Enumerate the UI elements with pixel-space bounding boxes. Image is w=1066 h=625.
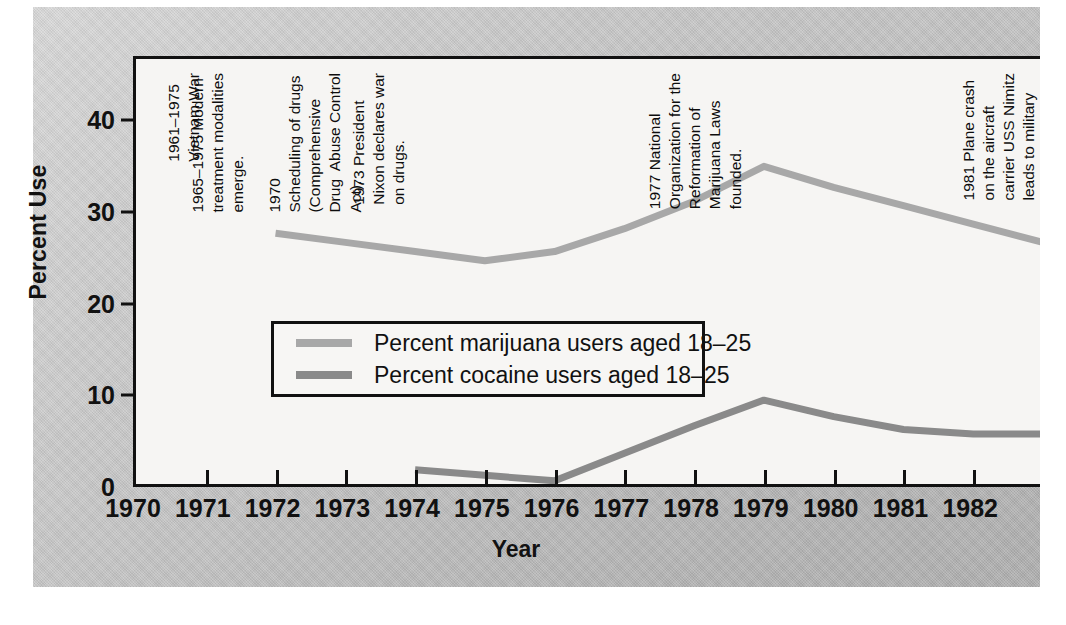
legend-item: Percent cocaine users aged 18–25: [296, 360, 702, 390]
y-tick-label: 40: [57, 106, 115, 135]
x-tick-mark: [276, 470, 279, 484]
x-tick-label: 1976: [524, 494, 580, 523]
x-tick-mark: [764, 470, 767, 484]
line-cocaine: [415, 400, 1040, 481]
y-tick-label: 30: [57, 197, 115, 226]
x-tick-mark: [694, 470, 697, 484]
x-tick-label: 1971: [175, 494, 231, 523]
x-tick-label: 1975: [454, 494, 510, 523]
x-tick-mark: [555, 470, 558, 484]
x-tick-label: 1979: [733, 494, 789, 523]
plot-inner: 1961–1975 Vietnam War1965–1975 Modern tr…: [136, 59, 1040, 484]
y-tick-label: 10: [57, 381, 115, 410]
x-tick-mark: [485, 470, 488, 484]
x-tick-label: 1982: [942, 494, 998, 523]
x-tick-label: 1981: [873, 494, 929, 523]
legend-swatch-marijuana: [296, 339, 352, 347]
x-tick-mark: [834, 470, 837, 484]
x-tick-label: 1977: [594, 494, 650, 523]
plot-area: 1961–1975 Vietnam War1965–1975 Modern tr…: [133, 56, 1040, 487]
y-axis-title: Percent Use: [25, 164, 52, 299]
x-tick-label: 1972: [245, 494, 301, 523]
x-tick-mark: [345, 470, 348, 484]
y-tick-label: 20: [57, 289, 115, 318]
legend-label-marijuana: Percent marijuana users aged 18–25: [374, 330, 751, 357]
legend-swatch-cocaine: [296, 371, 352, 379]
annotation-uss-nimitz: 1981 Plane crash on the aircraft carrier…: [959, 73, 1040, 200]
legend-item: Percent marijuana users aged 18–25: [296, 328, 702, 358]
x-tick-mark: [903, 470, 906, 484]
x-tick-label: 1970: [105, 494, 161, 523]
x-tick-label: 1978: [663, 494, 719, 523]
x-tick-mark: [206, 470, 209, 484]
x-tick-label: 1980: [803, 494, 859, 523]
annotation-norml-founded: 1977 National Organization for the Refor…: [645, 73, 746, 209]
chart-figure: Percent Use 010203040 1961–1975 Vietnam …: [0, 0, 1066, 625]
x-tick-label: 1973: [314, 494, 370, 523]
legend: Percent marijuana users aged 18–25 Perce…: [271, 321, 705, 397]
legend-label-cocaine: Percent cocaine users aged 18–25: [374, 362, 729, 389]
x-tick-mark: [415, 470, 418, 484]
x-tick-mark: [624, 470, 627, 484]
x-axis-title: Year: [492, 536, 541, 563]
x-tick-mark: [973, 470, 976, 484]
annotation-treatment-modalities: 1965–1975 Modern treatment modalities em…: [188, 73, 248, 213]
x-tick-label: 1974: [384, 494, 440, 523]
annotation-nixon-war-on-drugs: 1973 President Nixon declares war on dru…: [349, 73, 409, 205]
